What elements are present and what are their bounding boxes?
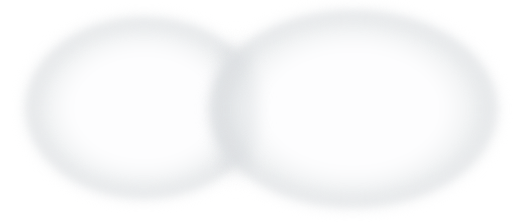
- venn-intersection-region: [206, 30, 266, 190]
- venn-diagram-canvas: [0, 0, 530, 222]
